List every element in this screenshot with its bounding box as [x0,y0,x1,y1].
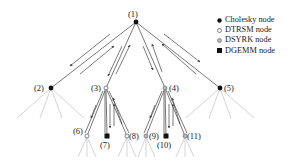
node-label-3: (3) [91,83,101,93]
legend-item-cholesky: Cholesky node [216,15,275,25]
node-9 [144,134,148,138]
node-5 [218,86,223,91]
message-arrows [70,34,200,128]
node-label-1: (1) [128,9,138,19]
node-4 [163,86,167,90]
node-3 [104,86,108,90]
node-label-5: (5) [224,83,234,93]
node-2 [49,86,54,91]
node-7 [105,134,110,139]
node-label-10: (10) [157,140,171,150]
node-1 [134,20,139,25]
tree-edges [51,22,220,136]
filled-circle-icon [216,17,223,24]
node-label-8: (8) [129,131,139,141]
node-label-6: (6) [73,126,83,136]
node-6 [85,134,89,138]
filled-square-icon [216,47,223,54]
open-circle-icon [216,27,223,34]
legend-item-dgemm: DGEMM node [216,46,275,56]
node-10 [164,134,169,139]
node-label-7: (7) [100,140,110,150]
node-label-2: (2) [34,83,44,93]
legend-item-dsyrk: DSYRK node [216,35,275,45]
legend-item-dtrsm: DTRSM node [216,25,275,35]
gray-circle-icon [216,37,223,44]
node-label-4: (4) [169,83,179,93]
legend: Cholesky node DTRSM node DSYRK node DGEM… [216,15,275,56]
subtree-lines [17,88,254,157]
node-label-11: (11) [187,131,201,141]
